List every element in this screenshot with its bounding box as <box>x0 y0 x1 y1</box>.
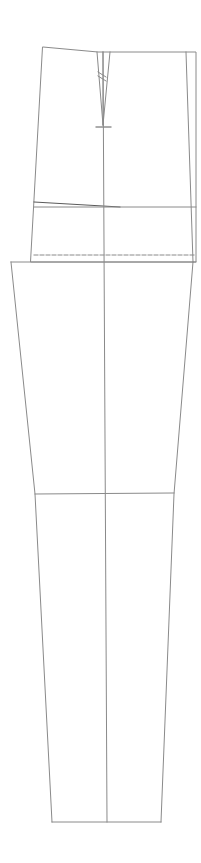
leg-inseam-edge <box>11 262 52 822</box>
trouser-pattern-drawing <box>0 0 201 863</box>
upper-block <box>31 47 196 262</box>
knee-line <box>35 493 174 494</box>
hip-lines <box>34 202 196 207</box>
grain-center-line <box>103 52 107 822</box>
upper-block-outline <box>31 47 196 262</box>
grain-line <box>103 52 107 822</box>
side-seam-slant <box>186 52 193 262</box>
dart-left-leg <box>97 52 103 125</box>
leg-block <box>11 262 196 822</box>
dart-right-leg <box>103 52 110 125</box>
leg-outseam-edge <box>161 262 193 822</box>
pattern-canvas <box>0 0 201 863</box>
hip-line-slanted <box>34 202 120 207</box>
side-seam-line <box>186 52 193 262</box>
